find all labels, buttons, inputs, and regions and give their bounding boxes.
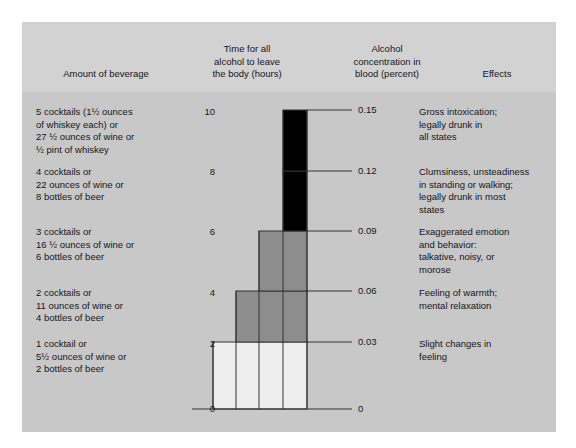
hours-value-row-4: 4: [193, 287, 215, 300]
column-header-concentration: Alcohol concentration in blood (percent): [312, 43, 462, 81]
beverage-row-2-line-3: 8 bottles of beer: [36, 191, 221, 204]
column-header-amount: Amount of beverage: [26, 68, 186, 81]
concentration-row-4-text: 0.06: [358, 285, 377, 296]
hours-value-row-3: 6: [193, 226, 215, 239]
effects-row-3-line-1: Exaggerated emotion: [419, 226, 559, 239]
beverage-row-2-line-2: 22 ounces of wine or: [36, 179, 221, 192]
bar-segment-tier-5-black: [283, 110, 307, 171]
bar-segment-tier-4-black: [283, 171, 307, 231]
effects-cell-row-1: Gross intoxication; legally drunk in all…: [419, 106, 559, 144]
concentration-label-0.09: 0.09: [358, 226, 398, 236]
effects-row-5-line-1: Slight changes in: [419, 338, 559, 351]
effects-cell-row-2: Clumsiness, unsteadiness in standing or …: [419, 166, 559, 216]
effects-cell-row-3: Exaggerated emotion and behavior: talkat…: [419, 226, 559, 276]
hours-zero-text: 0: [210, 403, 215, 414]
beverage-row-3-line-3: 6 bottles of beer: [36, 251, 221, 264]
concentration-zero-text: 0: [358, 403, 363, 414]
effects-row-1-line-3: all states: [419, 131, 559, 144]
effects-row-1-line-2: legally drunk in: [419, 119, 559, 132]
beverage-row-1-line-4: ½ pint of whiskey: [36, 144, 221, 157]
hours-value-zero: 0: [193, 403, 215, 416]
effects-row-3-line-4: morose: [419, 264, 559, 277]
bar-segment-tier-3-gray: [259, 231, 307, 291]
column-header-concentration-line1: Alcohol: [312, 43, 462, 56]
effects-cell-row-5: Slight changes in feeling: [419, 338, 559, 363]
effects-row-4-line-1: Feeling of warmth;: [419, 287, 559, 300]
column-header-time-line2: alcohol to leave: [172, 56, 322, 69]
column-header-effects: Effects: [442, 68, 552, 81]
beverage-row-1-line-3: 27 ½ ounces of wine or: [36, 131, 221, 144]
hours-value-row-1: 10: [193, 106, 215, 119]
beverage-row-1-line-2: of whiskey each) or: [36, 119, 221, 132]
effects-row-2-line-4: states: [419, 204, 559, 217]
hours-row-3-text: 6: [210, 226, 215, 237]
chart-panel: Amount of beverage Time for all alcohol …: [22, 22, 556, 432]
effects-row-4-line-2: mental relaxation: [419, 300, 559, 313]
effects-row-3-line-2: and behavior:: [419, 239, 559, 252]
effects-row-2-line-3: legally drunk in most: [419, 191, 559, 204]
beverage-row-4-line-2: 11 ounces of wine or: [36, 300, 221, 313]
concentration-row-5-text: 0.03: [358, 336, 377, 347]
effects-cell-row-4: Feeling of warmth; mental relaxation: [419, 287, 559, 312]
beverage-row-5-line-2: 5½ ounces of wine or: [36, 351, 221, 364]
effects-row-2-line-2: in standing or walking;: [419, 179, 559, 192]
column-header-concentration-line3: blood (percent): [312, 68, 462, 81]
column-header-time-line3: the body (hours): [172, 68, 322, 81]
concentration-label-0.15: 0.15: [358, 105, 398, 115]
beverage-row-3-line-2: 16 ½ ounces of wine or: [36, 239, 221, 252]
column-header-effects-line1: Effects: [442, 68, 552, 81]
bar-segment-tier-1-light: [213, 342, 307, 409]
hours-row-2-text: 8: [210, 166, 215, 177]
hours-row-5-text: 2: [210, 338, 215, 349]
column-header-amount-line1: Amount of beverage: [26, 68, 186, 81]
effects-row-1-line-1: Gross intoxication;: [419, 106, 559, 119]
column-header-time: Time for all alcohol to leave the body (…: [172, 43, 322, 81]
effects-row-5-line-2: feeling: [419, 351, 559, 364]
concentration-label-zero: 0: [358, 404, 398, 414]
concentration-label-0.12: 0.12: [358, 166, 398, 176]
concentration-row-3-text: 0.09: [358, 225, 377, 236]
concentration-label-0.03: 0.03: [358, 337, 398, 347]
concentration-row-2-text: 0.12: [358, 165, 377, 176]
hours-row-1-text: 10: [204, 106, 215, 117]
beverage-row-5-line-3: 2 bottles of beer: [36, 363, 221, 376]
concentration-label-0.06: 0.06: [358, 286, 398, 296]
concentration-row-1-text: 0.15: [358, 104, 377, 115]
column-header-concentration-line2: concentration in: [312, 56, 462, 69]
effects-row-2-line-1: Clumsiness, unsteadiness: [419, 166, 559, 179]
beverage-row-4-line-3: 4 bottles of beer: [36, 312, 221, 325]
hours-value-row-5: 2: [193, 338, 215, 351]
hours-row-4-text: 4: [210, 287, 215, 298]
bar-segment-tier-2-gray: [236, 291, 307, 342]
effects-row-3-line-3: talkative, noisy, or: [419, 251, 559, 264]
figure-page: Amount of beverage Time for all alcohol …: [0, 0, 576, 448]
column-header-time-line1: Time for all: [172, 43, 322, 56]
hours-value-row-2: 8: [193, 166, 215, 179]
